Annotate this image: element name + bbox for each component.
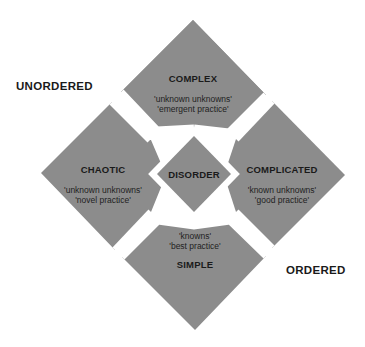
ordered-label: ORDERED bbox=[286, 264, 346, 276]
simple-line2: 'best practice' bbox=[145, 241, 245, 251]
complex-line2: 'emergent practice' bbox=[143, 104, 243, 114]
unordered-label: UNORDERED bbox=[16, 80, 93, 92]
chaotic-line2: 'novel practice' bbox=[53, 195, 153, 205]
complex-title: COMPLEX bbox=[143, 73, 243, 84]
complicated-title: COMPLICATED bbox=[232, 164, 332, 175]
complicated-line2: 'good practice' bbox=[232, 195, 332, 205]
simple-domain: 'knowns' 'best practice' SIMPLE bbox=[145, 231, 245, 270]
chaotic-domain: CHAOTIC 'unknown unknowns' 'novel practi… bbox=[53, 164, 153, 205]
complicated-line1: 'known unknowns' bbox=[232, 185, 332, 195]
chaotic-line1: 'unknown unknowns' bbox=[53, 185, 153, 195]
disorder-domain: DISORDER bbox=[159, 169, 229, 180]
simple-title: SIMPLE bbox=[145, 259, 245, 270]
complicated-domain: COMPLICATED 'known unknowns' 'good pract… bbox=[232, 164, 332, 205]
complex-line1: 'unknown unknowns' bbox=[143, 94, 243, 104]
simple-line1: 'knowns' bbox=[145, 231, 245, 241]
disorder-title: DISORDER bbox=[159, 169, 229, 180]
chaotic-title: CHAOTIC bbox=[53, 164, 153, 175]
complex-domain: COMPLEX 'unknown unknowns' 'emergent pra… bbox=[143, 73, 243, 114]
